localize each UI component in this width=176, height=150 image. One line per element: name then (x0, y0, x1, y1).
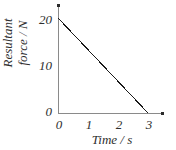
x-axis-line (58, 113, 163, 114)
x-axis-arrow-icon (161, 112, 164, 115)
x-axis-title: Time / s (60, 132, 164, 148)
x-tick-label-2: 2 (112, 118, 126, 131)
x-tick-label-3: 3 (142, 118, 156, 131)
y-axis-title: Resultant force / N (1, 1, 31, 85)
y-tick-label-0: 0 (20, 105, 52, 118)
force-time-graph: 20 10 0 0 1 2 3 Time / s Resultant force… (0, 0, 176, 150)
plot-area (58, 18, 148, 113)
y-axis-title-line-2: force / N (16, 1, 31, 85)
y-axis-arrow-icon (57, 4, 60, 7)
data-series-line (58, 18, 148, 113)
x-tick-label-1: 1 (82, 118, 96, 131)
x-tick-label-0: 0 (52, 118, 66, 131)
y-axis-title-line-1: Resultant (1, 1, 16, 85)
